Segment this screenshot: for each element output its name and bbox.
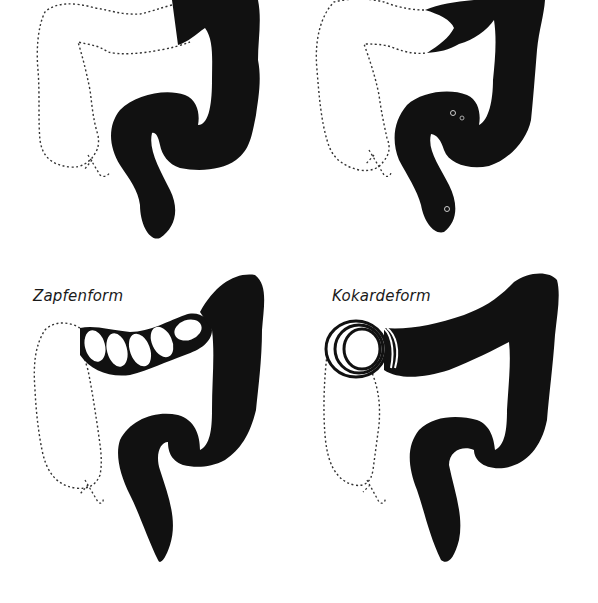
filled-colon-beak	[395, 0, 545, 232]
panel-top-right	[299, 0, 598, 300]
colon-diagram-top-left	[0, 0, 299, 300]
filled-colon	[111, 0, 260, 239]
colon-diagram-top-right	[299, 0, 598, 300]
panel-top-left	[0, 0, 299, 300]
colon-diagram-kokardeform	[299, 270, 598, 603]
filled-colon	[384, 273, 559, 561]
appendix-outline	[365, 150, 391, 176]
appendix-outline	[84, 155, 110, 176]
appendix-outline	[80, 480, 103, 503]
panel-bottom-right: Kokardeform	[299, 270, 598, 603]
panel-bottom-left: Zapfenform	[0, 270, 299, 603]
colon-diagram-zapfenform	[0, 270, 299, 603]
